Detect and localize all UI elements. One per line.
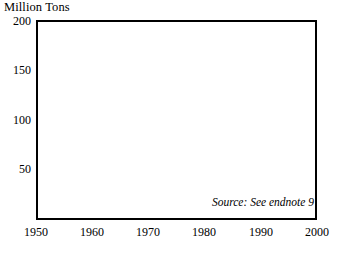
plot-frame (36, 20, 317, 220)
y-axis-tick-50: 50 (19, 163, 31, 175)
x-axis-tick-1980: 1980 (182, 226, 226, 238)
x-axis-tick-1990: 1990 (239, 226, 283, 238)
y-axis-tick-200: 200 (13, 15, 31, 27)
x-axis-tick-1960: 1960 (70, 226, 114, 238)
chart-figure: Million Tons 200 150 100 50 1950 1960 19… (0, 0, 340, 253)
x-axis-tick-1970: 1970 (126, 226, 170, 238)
x-axis-tick-1950: 1950 (14, 226, 58, 238)
x-axis-tick-2000: 2000 (295, 226, 339, 238)
source-note: Source: See endnote 9 (212, 196, 314, 208)
chart-title: Million Tons (4, 0, 70, 15)
plot-area (36, 20, 317, 220)
y-axis-tick-100: 100 (13, 114, 31, 126)
y-axis-tick-150: 150 (13, 64, 31, 76)
